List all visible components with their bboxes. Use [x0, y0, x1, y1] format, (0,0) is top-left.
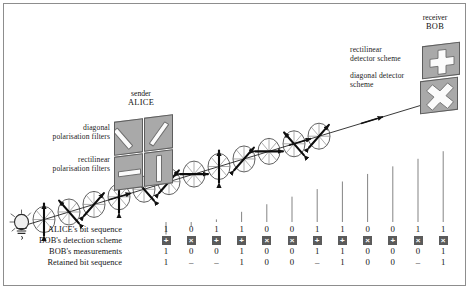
- table-row: Retained bit sequence1––100–100–1: [62, 257, 462, 268]
- rectilinear-filters-label: rectilinear polarisation filters: [14, 155, 110, 173]
- bit-cell: –: [310, 257, 324, 268]
- rectilinear-detector-label: rectilinear detector scheme: [350, 45, 442, 63]
- bit-cell: –: [184, 257, 198, 268]
- row-label: BOB's measurements: [49, 246, 122, 257]
- bit-sequence-table: ALICE's bit sequence101100110011BOB's de…: [62, 224, 462, 268]
- scheme-cell-diagonal[interactable]: ×: [363, 236, 372, 245]
- bit-cell: 0: [260, 224, 274, 235]
- row-label: BOB's detection scheme: [39, 235, 122, 246]
- sender-name-text: ALICE: [128, 98, 154, 107]
- bit-cell: 0: [285, 246, 299, 257]
- bit-cell: 0: [260, 257, 274, 268]
- bit-cell: 1: [235, 224, 249, 235]
- alice-filter-panel: [114, 116, 174, 190]
- bit-cell: 0: [361, 257, 375, 268]
- bit-cell: 0: [285, 224, 299, 235]
- bit-cell: 1: [159, 224, 173, 235]
- bit-cell: 0: [260, 246, 274, 257]
- bit-cell: 0: [361, 224, 375, 235]
- bit-cell: 1: [159, 246, 173, 257]
- filter-diagonal-slash[interactable]: [144, 114, 173, 152]
- sender-label: sender ALICE: [104, 89, 178, 108]
- bit-cell: 1: [436, 224, 450, 235]
- bit-cell: –: [411, 257, 425, 268]
- scheme-cell-diagonal[interactable]: ×: [288, 236, 297, 245]
- bit-cell: 1: [235, 257, 249, 268]
- bit-cell: 1: [411, 224, 425, 235]
- bit-cell: 1: [335, 224, 349, 235]
- scheme-cell-rectilinear[interactable]: +: [212, 236, 221, 245]
- bit-cell: 1: [209, 224, 223, 235]
- scheme-cell-diagonal[interactable]: ×: [262, 236, 271, 245]
- bit-cell: 1: [235, 246, 249, 257]
- figure-canvas: sender ALICE receiver BOB diagonal polar…: [0, 0, 471, 292]
- scheme-cell-diagonal[interactable]: ×: [439, 236, 448, 245]
- bit-cell: 1: [335, 246, 349, 257]
- bit-cell: 0: [386, 246, 400, 257]
- receiver-name-text: BOB: [426, 22, 444, 31]
- scheme-cell-rectilinear[interactable]: +: [388, 236, 397, 245]
- bit-cell: 1: [436, 257, 450, 268]
- bit-cell: 0: [285, 257, 299, 268]
- diagonal-detector-label: diagonal detector scheme: [350, 71, 442, 89]
- scheme-cell-diagonal[interactable]: ×: [414, 236, 423, 245]
- scheme-cell-rectilinear[interactable]: +: [338, 236, 347, 245]
- bit-cell: 0: [386, 224, 400, 235]
- table-row: BOB's detection scheme+×++××++×+××: [62, 235, 462, 246]
- table-row: ALICE's bit sequence101100110011: [62, 224, 462, 235]
- table-row: BOB's measurements100100110001: [62, 246, 462, 257]
- bit-cell: 0: [361, 246, 375, 257]
- filter-rectilinear-vertical[interactable]: [144, 149, 173, 187]
- scheme-cell-rectilinear[interactable]: +: [162, 236, 171, 245]
- bit-cell: –: [209, 257, 223, 268]
- sender-role-text: sender: [131, 89, 151, 98]
- bit-cell: 0: [209, 246, 223, 257]
- bit-cell: 0: [184, 246, 198, 257]
- bit-cell: 1: [436, 246, 450, 257]
- scheme-cell-rectilinear[interactable]: +: [313, 236, 322, 245]
- bit-cell: 1: [310, 224, 324, 235]
- bit-cell: 0: [184, 224, 198, 235]
- receiver-role-text: receiver: [423, 13, 447, 22]
- row-label: Retained bit sequence: [47, 257, 122, 268]
- bit-cell: 1: [335, 257, 349, 268]
- bit-cell: 1: [310, 246, 324, 257]
- bit-cell: 0: [386, 257, 400, 268]
- receiver-label: receiver BOB: [400, 13, 470, 32]
- row-label: ALICE's bit sequence: [48, 224, 122, 235]
- filter-diagonal-backslash[interactable]: [114, 118, 143, 156]
- bit-cell: 0: [411, 246, 425, 257]
- filter-rectilinear-horizontal[interactable]: [114, 153, 143, 191]
- scheme-cell-rectilinear[interactable]: +: [237, 236, 246, 245]
- scheme-cell-diagonal[interactable]: ×: [187, 236, 196, 245]
- diagonal-filters-label: diagonal polarisation filters: [14, 123, 110, 141]
- bit-cell: 1: [159, 257, 173, 268]
